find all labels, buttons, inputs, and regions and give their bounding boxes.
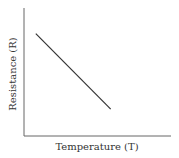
y-axis-label: Resistance (R) [7, 37, 18, 110]
plot-area [0, 0, 179, 158]
x-axis-label: Temperature (T) [55, 141, 138, 152]
chart: Resistance (R) Temperature (T) [0, 0, 179, 158]
data-line [36, 34, 111, 110]
